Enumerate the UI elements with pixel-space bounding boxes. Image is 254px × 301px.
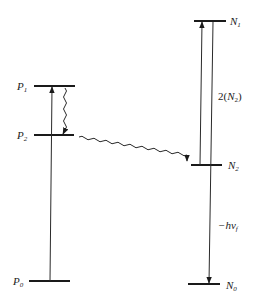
arrow-P0-to-P1 <box>50 87 52 281</box>
label-P0: P0 <box>12 275 24 289</box>
label-N1: N1 <box>229 15 241 29</box>
pump-annotation: 2(N2) <box>218 90 242 104</box>
label-N0: N0 <box>225 279 237 293</box>
wavy-arrow-P1-to-P2 <box>63 88 67 134</box>
energy-level-diagram: P1 P2 P0 N1 N2 N0 2(N2) −hνf <box>0 0 254 301</box>
emission-annotation: −hνf <box>218 219 239 233</box>
arrow-N1-to-N0 <box>209 22 213 283</box>
label-P1: P1 <box>16 80 27 94</box>
arrow-N2-to-N1 <box>200 22 202 165</box>
label-N2: N2 <box>227 159 239 173</box>
wavy-arrow-P2-to-N2 <box>79 136 187 161</box>
label-P2: P2 <box>16 129 28 143</box>
